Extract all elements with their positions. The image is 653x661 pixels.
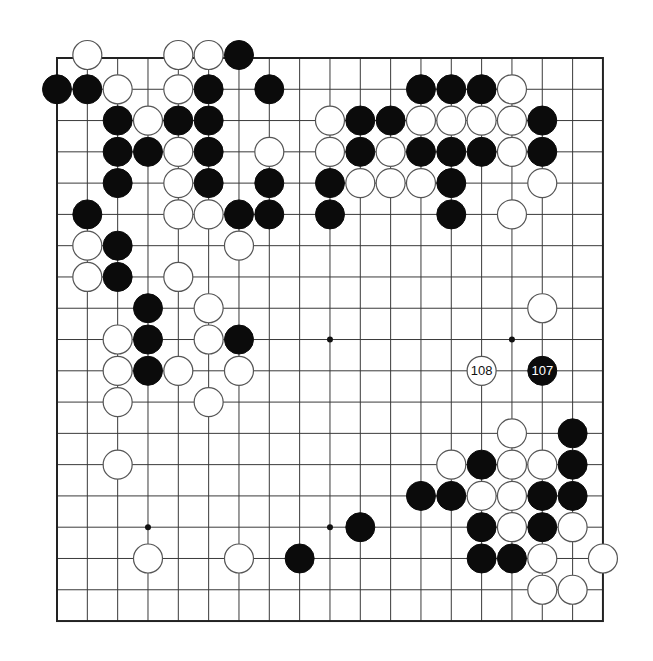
white-stone (497, 450, 526, 479)
black-stone (528, 513, 557, 542)
white-stone (315, 106, 344, 135)
black-stone (194, 75, 223, 104)
white-stone (194, 325, 223, 354)
black-stone (315, 169, 344, 198)
black-stone (194, 137, 223, 166)
black-stone (528, 481, 557, 510)
white-stone (103, 75, 132, 104)
white-stone (346, 169, 375, 198)
black-stone (133, 294, 162, 323)
white-stone (224, 231, 253, 260)
white-stone (497, 481, 526, 510)
white-stone (224, 356, 253, 385)
black-stone (497, 544, 526, 573)
white-stone (103, 388, 132, 417)
black-stone (346, 137, 375, 166)
white-stone (528, 450, 557, 479)
black-stone (437, 200, 466, 229)
black-stone (103, 231, 132, 260)
black-stone (376, 106, 405, 135)
black-stone (194, 106, 223, 135)
white-stone (497, 106, 526, 135)
white-stone (528, 294, 557, 323)
white-stone (73, 262, 102, 291)
black-stone (558, 419, 587, 448)
white-stone (164, 75, 193, 104)
black-stone (406, 137, 435, 166)
star-point (145, 524, 151, 530)
black-stone (437, 481, 466, 510)
black-stone (467, 450, 496, 479)
go-board: 107108 (0, 0, 653, 661)
black-stone (437, 169, 466, 198)
black-stone (558, 481, 587, 510)
white-stone (164, 41, 193, 70)
white-stone (164, 262, 193, 291)
white-stone (103, 450, 132, 479)
white-stone (194, 294, 223, 323)
black-stone (103, 169, 132, 198)
white-stone (73, 41, 102, 70)
white-stone (406, 106, 435, 135)
white-stone (164, 356, 193, 385)
black-stone (73, 200, 102, 229)
black-stone (224, 41, 253, 70)
white-stone (588, 544, 617, 573)
white-stone (467, 481, 496, 510)
black-stone (346, 513, 375, 542)
black-stone (406, 75, 435, 104)
black-stone (224, 200, 253, 229)
move-number-label: 108 (471, 363, 493, 378)
white-stone (497, 200, 526, 229)
black-stone (528, 106, 557, 135)
black-stone (164, 106, 193, 135)
white-stone (528, 575, 557, 604)
white-stone (315, 137, 344, 166)
white-stone (528, 169, 557, 198)
black-stone (437, 137, 466, 166)
white-stone (497, 75, 526, 104)
white-stone (497, 419, 526, 448)
star-point (509, 337, 515, 343)
white-stone (497, 137, 526, 166)
black-stone (315, 200, 344, 229)
white-stone (194, 388, 223, 417)
black-stone (103, 106, 132, 135)
white-stone (467, 106, 496, 135)
white-stone (255, 137, 284, 166)
white-stone (164, 137, 193, 166)
black-stone (73, 75, 102, 104)
white-stone (73, 231, 102, 260)
black-stone (346, 106, 375, 135)
black-stone (528, 137, 557, 166)
star-point (327, 337, 333, 343)
white-stone (558, 513, 587, 542)
black-stone (103, 262, 132, 291)
white-stone (133, 544, 162, 573)
black-stone (255, 169, 284, 198)
black-stone (406, 481, 435, 510)
white-stone (164, 200, 193, 229)
white-stone (528, 544, 557, 573)
white-stone (164, 169, 193, 198)
go-board-svg: 107108 (0, 0, 653, 661)
white-stone (558, 575, 587, 604)
white-stone (497, 513, 526, 542)
white-stone (406, 169, 435, 198)
black-stone (103, 137, 132, 166)
star-point (327, 524, 333, 530)
move-number-label: 107 (531, 363, 553, 378)
black-stone (133, 137, 162, 166)
black-stone (194, 169, 223, 198)
black-stone (43, 75, 72, 104)
black-stone (467, 544, 496, 573)
white-stone (376, 137, 405, 166)
black-stone (255, 200, 284, 229)
black-stone (255, 75, 284, 104)
black-stone (285, 544, 314, 573)
black-stone (558, 450, 587, 479)
white-stone (224, 544, 253, 573)
white-stone (194, 200, 223, 229)
white-stone (133, 106, 162, 135)
white-stone (103, 325, 132, 354)
